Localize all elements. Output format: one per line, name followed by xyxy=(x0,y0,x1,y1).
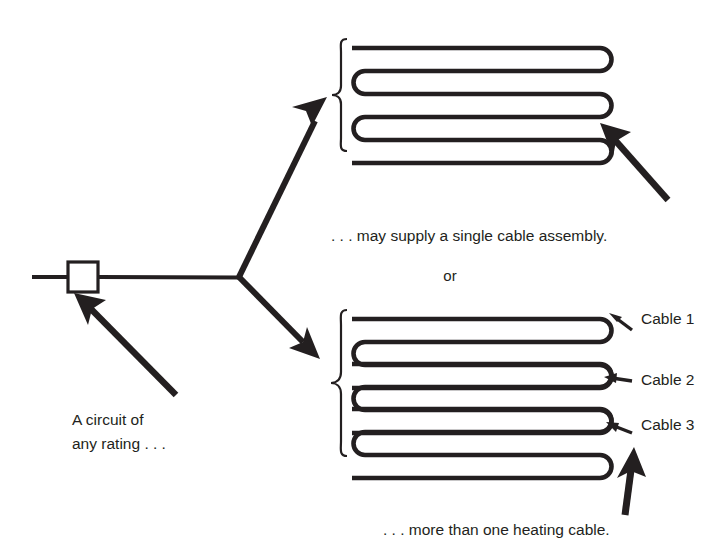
upper-pass-1 xyxy=(352,48,612,71)
caption-more-than-one: . . . more than one heating cable. xyxy=(383,521,610,538)
upper-branch-arrow xyxy=(239,97,327,277)
caption-single-assembly: . . . may supply a single cable assembly… xyxy=(331,227,607,244)
lower-cable-3 xyxy=(352,409,612,478)
cable-label-2: Cable 2 xyxy=(641,371,694,388)
lower-branch-shaft xyxy=(239,277,303,342)
lower-cable-2-turn-left xyxy=(354,387,600,410)
upper-turn-left-2 xyxy=(354,117,600,140)
lower-cable-3-pass-3 xyxy=(352,455,612,478)
upper-turn-right-3 xyxy=(352,140,612,163)
lower-cable-2-pass-3 xyxy=(352,410,612,433)
lower-cable-3-turn-left xyxy=(354,432,600,455)
cable-label-1: Cable 1 xyxy=(641,310,694,327)
upper-cable-assembly xyxy=(332,39,612,163)
circuit-callout-shaft xyxy=(90,308,176,395)
circuit-breaker-box xyxy=(68,262,98,292)
circuit-feeder-group xyxy=(32,262,239,292)
lower-cable-2 xyxy=(352,364,612,433)
circuit-callout-arrow xyxy=(74,293,176,395)
caption-circuit-line-1: A circuit of xyxy=(72,411,144,428)
cable-label-3: Cable 3 xyxy=(641,416,694,433)
upper-assembly-brace xyxy=(332,39,347,151)
lower-assembly-callout-arrow xyxy=(617,447,646,515)
heating-cable-circuit-diagram: . . . may supply a single cable assembly… xyxy=(0,0,725,552)
lower-cable-2-pass-1 xyxy=(352,364,612,387)
upper-callout-shaft xyxy=(614,139,668,200)
feeder-line-right xyxy=(98,277,239,278)
lower-cable-1-pass-1 xyxy=(352,319,612,342)
upper-branch-shaft xyxy=(239,121,315,277)
upper-turn-right-2 xyxy=(365,94,612,117)
lower-cable-1-pass-3 xyxy=(352,365,612,388)
upper-turn-left-1 xyxy=(354,71,600,94)
caption-circuit-line-2: any rating . . . xyxy=(72,435,166,452)
lower-cable-1-turn-left xyxy=(354,342,600,365)
diagram-canvas: . . . may supply a single cable assembly… xyxy=(0,0,725,552)
lower-callout-shaft xyxy=(625,470,631,515)
upper-assembly-callout-arrow xyxy=(600,123,668,200)
caption-or: or xyxy=(443,267,456,284)
upper-branch-arrowhead xyxy=(292,97,327,126)
lower-branch-arrow xyxy=(239,277,320,359)
lower-assembly-brace xyxy=(331,310,347,456)
lower-cable-3-pass-1 xyxy=(352,409,612,432)
